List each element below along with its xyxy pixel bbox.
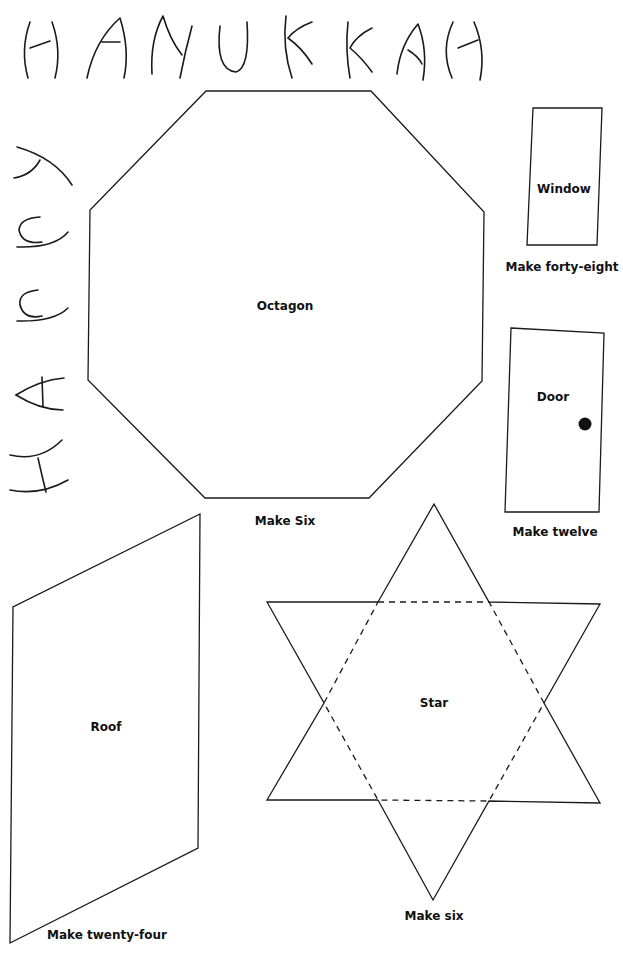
door-label: Door bbox=[537, 390, 569, 404]
window-label: Window bbox=[537, 182, 591, 196]
star-label: Star bbox=[420, 696, 448, 710]
star-instruction: Make six bbox=[404, 909, 463, 923]
octagon-label: Octagon bbox=[257, 299, 314, 313]
octagon-instruction: Make Six bbox=[255, 514, 316, 528]
octagon-piece bbox=[88, 91, 484, 498]
window-instruction: Make forty-eight bbox=[505, 260, 618, 274]
roof-instruction: Make twenty-four bbox=[47, 928, 167, 942]
door-knob-icon bbox=[579, 418, 592, 431]
window-piece bbox=[527, 108, 602, 245]
hanukkah-banner bbox=[24, 16, 482, 80]
roof-label: Roof bbox=[91, 720, 122, 734]
template-sheet bbox=[0, 0, 623, 959]
happy-banner bbox=[10, 147, 72, 492]
door-instruction: Make twelve bbox=[512, 525, 597, 539]
